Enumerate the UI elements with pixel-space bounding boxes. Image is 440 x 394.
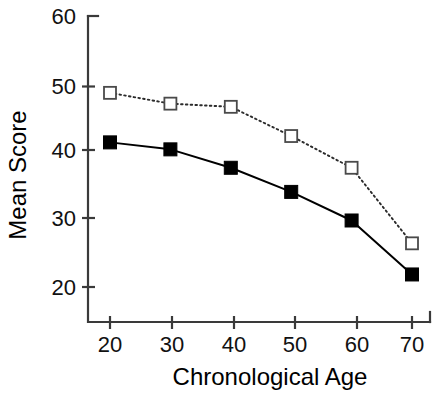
y-axis-title: Mean Score bbox=[4, 110, 31, 239]
data-point-marker bbox=[285, 130, 297, 142]
y-tick-label: 60 bbox=[52, 4, 76, 29]
chart-figure: 60 50 40 30 20 20 30 40 50 60 70 Chronol… bbox=[0, 0, 440, 394]
series-layer bbox=[104, 87, 419, 281]
x-tick-label: 30 bbox=[160, 332, 184, 357]
y-tick-label: 50 bbox=[52, 74, 76, 99]
x-tick-label: 50 bbox=[283, 332, 307, 357]
data-point-marker bbox=[224, 161, 237, 174]
data-point-marker bbox=[164, 143, 177, 156]
data-point-marker bbox=[104, 87, 116, 99]
y-tick-label: 20 bbox=[52, 275, 76, 300]
data-point-marker bbox=[164, 98, 176, 110]
x-tick-label: 20 bbox=[98, 332, 122, 357]
data-point-marker bbox=[346, 162, 358, 174]
data-point-marker bbox=[406, 268, 419, 281]
series-line-open-square-series bbox=[110, 93, 412, 243]
axis-spines bbox=[88, 16, 430, 322]
series-line-filled-square-series bbox=[110, 142, 412, 274]
x-tick-label: 60 bbox=[345, 332, 369, 357]
line-chart: 60 50 40 30 20 20 30 40 50 60 70 Chronol… bbox=[0, 0, 440, 394]
x-tick-labels: 20 30 40 50 60 70 bbox=[98, 332, 424, 357]
data-point-marker bbox=[285, 185, 298, 198]
x-tick-label: 70 bbox=[400, 332, 424, 357]
x-tick-label: 40 bbox=[222, 332, 246, 357]
y-tick-label: 40 bbox=[52, 138, 76, 163]
data-point-marker bbox=[345, 214, 358, 227]
data-point-marker bbox=[225, 101, 237, 113]
data-point-marker bbox=[406, 237, 418, 249]
data-point-marker bbox=[104, 136, 117, 149]
y-tick-labels: 60 50 40 30 20 bbox=[52, 4, 76, 300]
y-tick-label: 30 bbox=[52, 206, 76, 231]
x-axis-title: Chronological Age bbox=[173, 363, 368, 390]
